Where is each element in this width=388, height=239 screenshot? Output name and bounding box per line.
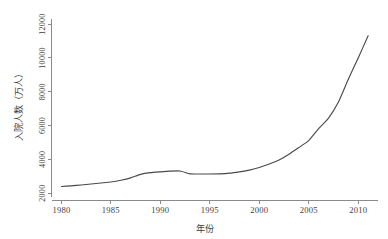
x-axis-title: 年份 (196, 223, 214, 234)
data-series-group (61, 36, 368, 187)
y-tick-label: 10000 (38, 47, 47, 68)
chart-container: 20004000600080001000012000 1980198519901… (0, 0, 388, 239)
x-tick-label: 2000 (250, 205, 268, 215)
axes (52, 19, 379, 200)
x-axis-ticks: 1980198519901995200020052010 (52, 201, 367, 215)
y-tick-label: 12000 (38, 13, 47, 34)
y-axis-title: 入院人数（万人） (13, 69, 24, 141)
data-line-0 (61, 36, 368, 187)
y-tick-label: 4000 (38, 151, 47, 168)
y-tick-label: 2000 (38, 185, 47, 202)
x-tick-label: 1990 (151, 205, 169, 215)
x-tick-label: 1985 (102, 205, 120, 215)
x-tick-label: 2005 (300, 205, 318, 215)
x-tick-label: 2010 (349, 205, 367, 215)
y-tick-label: 6000 (38, 117, 47, 134)
x-tick-label: 1995 (201, 205, 219, 215)
y-tick-label: 8000 (38, 83, 47, 100)
x-tick-label: 1980 (52, 205, 70, 215)
line-chart: 20004000600080001000012000 1980198519901… (0, 0, 388, 239)
y-axis-ticks: 20004000600080001000012000 (38, 13, 51, 201)
